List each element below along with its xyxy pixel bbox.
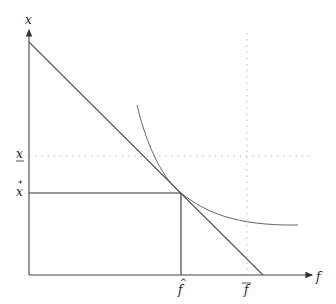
indifference-curve xyxy=(137,105,298,225)
x-lower-label: x xyxy=(16,147,23,161)
x-axis-label: f xyxy=(315,270,323,284)
budget-line xyxy=(29,42,263,275)
f-hat-mark: ^ xyxy=(180,278,187,287)
f-bar-label: f xyxy=(243,283,251,297)
y-axis-label: x xyxy=(25,13,32,27)
x-hat-mark: * xyxy=(18,179,23,189)
diagram-canvas: x f x x * f ^ f xyxy=(0,0,336,304)
